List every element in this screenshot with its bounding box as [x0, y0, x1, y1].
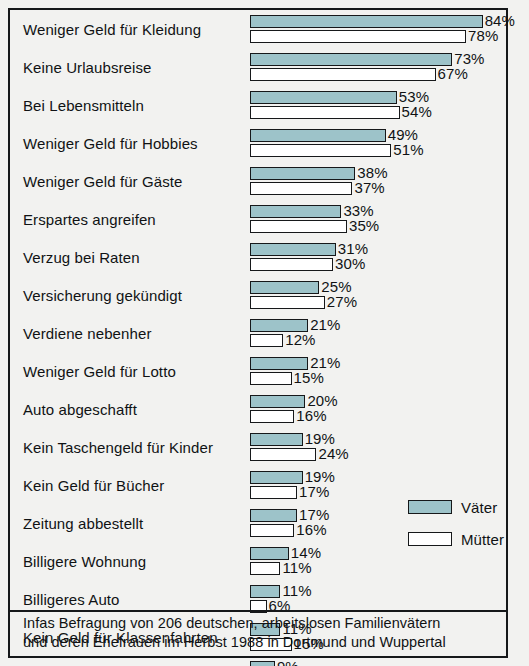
- caption-line-1: Infas Befragung von 206 deutschen, arbei…: [23, 614, 496, 633]
- chart-row: Verzug bei Raten31%30%: [10, 240, 506, 278]
- category-label: Weniger Geld für Hobbies: [23, 135, 198, 152]
- chart-row: Versicherung gekündigt25%27%: [10, 278, 506, 316]
- bar-mutter: [250, 334, 283, 347]
- chart-row: Weniger Geld für Lotto21%15%: [10, 354, 506, 392]
- chart-caption: Infas Befragung von 206 deutschen, arbei…: [23, 614, 496, 652]
- chart-row: Auto abgeschafft20%16%: [10, 392, 506, 430]
- category-label: Billigeres Auto: [23, 591, 120, 608]
- caption-divider: [10, 610, 506, 612]
- chart-row: Bei Lebensmitteln53%54%: [10, 88, 506, 126]
- bar-mutter: [250, 372, 292, 385]
- chart-row: Rauchen aufgegeben9%5%: [10, 658, 506, 666]
- bar-value-label: 30%: [335, 255, 365, 272]
- bar-mutter: [250, 486, 297, 499]
- bar-value-label: 16%: [296, 407, 326, 424]
- bar-value-label: 16%: [296, 521, 326, 538]
- bar-value-label: 27%: [327, 293, 357, 310]
- bar-mutter: [250, 410, 294, 423]
- bar-mutter: [250, 220, 347, 233]
- category-label: Bei Lebensmitteln: [23, 97, 144, 114]
- clipped-headline: [0, 0, 529, 3]
- category-label: Kein Taschengeld für Kinder: [23, 439, 213, 456]
- bar-vater: [250, 433, 303, 446]
- bar-mutter: [250, 562, 280, 575]
- bar-value-label: 51%: [393, 141, 423, 158]
- bar-mutter: [250, 106, 400, 119]
- category-label: Weniger Geld für Kleidung: [23, 21, 201, 38]
- bar-vater: [250, 661, 275, 666]
- chart-page: Weniger Geld für Kleidung84%78%Keine Url…: [0, 0, 529, 666]
- chart-row: Weniger Geld für Gäste38%37%: [10, 164, 506, 202]
- bar-value-label: 37%: [354, 179, 384, 196]
- bar-value-label: 67%: [438, 65, 468, 82]
- legend-swatch-icon-mutter: [408, 532, 452, 546]
- bar-mutter: [250, 258, 333, 271]
- legend-item-vater: Väter: [408, 497, 508, 517]
- category-label: Zeitung abbestellt: [23, 515, 143, 532]
- category-label: Weniger Geld für Lotto: [23, 363, 176, 380]
- category-label: Keine Urlaubsreise: [23, 59, 152, 76]
- category-label: Kein Geld für Bücher: [23, 477, 164, 494]
- chart-row: Weniger Geld für Kleidung84%78%: [10, 12, 506, 50]
- caption-line-2: und deren Ehefrauen im Herbst 1988 in Do…: [23, 633, 496, 652]
- category-label: Verzug bei Raten: [23, 249, 140, 266]
- bar-vater: [250, 15, 483, 28]
- bar-mutter: [250, 144, 391, 157]
- bar-value-label: 12%: [285, 331, 315, 348]
- category-label: Verdiene nebenher: [23, 325, 151, 342]
- bar-vater: [250, 509, 297, 522]
- chart-legend: Väter Mütter: [408, 497, 508, 561]
- bar-value-label: 78%: [468, 27, 498, 44]
- category-label: Versicherung gekündigt: [23, 287, 182, 304]
- bar-vater: [250, 281, 319, 294]
- bar-vater: [250, 243, 336, 256]
- category-label: Billigere Wohnung: [23, 553, 146, 570]
- chart-frame: Weniger Geld für Kleidung84%78%Keine Url…: [8, 8, 508, 658]
- bar-vater: [250, 91, 397, 104]
- bar-vater: [250, 53, 452, 66]
- bar-value-label: 11%: [282, 559, 311, 576]
- bar-mutter: [250, 524, 294, 537]
- bar-value-label: 15%: [294, 369, 324, 386]
- legend-label-vater: Väter: [461, 499, 497, 516]
- category-label: Weniger Geld für Gäste: [23, 173, 183, 190]
- legend-swatch-icon-vater: [408, 500, 452, 514]
- bar-value-label: 35%: [349, 217, 379, 234]
- chart-row: Kein Taschengeld für Kinder19%24%: [10, 430, 506, 468]
- bar-value-label: 24%: [318, 445, 348, 462]
- bar-value-label: 54%: [402, 103, 432, 120]
- bar-mutter: [250, 30, 466, 43]
- legend-item-mutter: Mütter: [408, 529, 508, 549]
- bar-vater: [250, 129, 386, 142]
- chart-row: Verdiene nebenher21%12%: [10, 316, 506, 354]
- bar-vater: [250, 471, 303, 484]
- bar-mutter: [250, 182, 352, 195]
- bar-value-label: 9%: [277, 658, 299, 666]
- bar-value-label: 17%: [299, 483, 329, 500]
- chart-row: Keine Urlaubsreise73%67%: [10, 50, 506, 88]
- category-label: Erspartes angreifen: [23, 211, 156, 228]
- chart-row: Weniger Geld für Hobbies49%51%: [10, 126, 506, 164]
- bar-vater: [250, 205, 341, 218]
- bar-vater: [250, 167, 355, 180]
- bar-mutter: [250, 296, 325, 309]
- bar-mutter: [250, 448, 316, 461]
- chart-row: Erspartes angreifen33%35%: [10, 202, 506, 240]
- category-label: Auto abgeschafft: [23, 401, 137, 418]
- legend-label-mutter: Mütter: [461, 531, 504, 548]
- bar-mutter: [250, 68, 436, 81]
